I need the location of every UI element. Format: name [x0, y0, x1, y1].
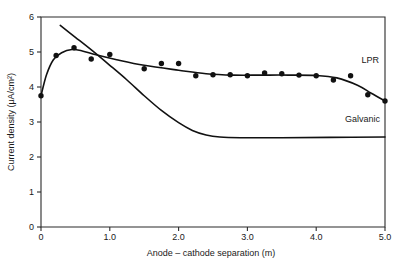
- y-tick-label: 2: [29, 152, 34, 162]
- data-point: [279, 71, 284, 76]
- data-point: [71, 45, 76, 50]
- x-axis-ticks: 01.02.03.04.05.0: [38, 227, 391, 242]
- plot-series: [38, 25, 387, 137]
- data-point: [262, 70, 267, 75]
- data-point: [210, 72, 215, 77]
- data-point: [245, 73, 250, 78]
- plot-frame: [41, 17, 385, 227]
- chart-figure: 0123456 01.02.03.04.05.0 LPRGalvanic Ano…: [0, 0, 407, 270]
- current-density-vs-separation-chart: 0123456 01.02.03.04.05.0 LPRGalvanic Ano…: [0, 0, 407, 270]
- series-label-lpr: LPR: [362, 55, 380, 65]
- data-point: [53, 53, 58, 58]
- data-point: [142, 66, 147, 71]
- galvanic-fit-line: [60, 25, 385, 137]
- data-point: [331, 77, 336, 82]
- data-point: [296, 72, 301, 77]
- x-axis-title: Anode – cathode separation (m): [147, 248, 276, 258]
- y-axis-ticks: 0123456: [29, 12, 41, 232]
- data-point: [159, 61, 164, 66]
- data-point: [176, 61, 181, 66]
- data-point: [382, 98, 387, 103]
- x-tick-label: 4.0: [310, 232, 323, 242]
- y-tick-label: 4: [29, 82, 34, 92]
- axis-frame: [41, 17, 385, 227]
- data-point: [107, 52, 112, 57]
- y-axis-title: Current density (μA/cm²): [6, 73, 16, 171]
- y-tick-label: 5: [29, 47, 34, 57]
- y-tick-label: 6: [29, 12, 34, 22]
- y-tick-label: 0: [29, 222, 34, 232]
- data-point: [89, 56, 94, 61]
- data-point: [193, 73, 198, 78]
- x-tick-label: 3.0: [241, 232, 254, 242]
- x-tick-label: 2.0: [172, 232, 185, 242]
- data-point: [228, 72, 233, 77]
- data-point: [38, 93, 43, 98]
- series-annotations: LPRGalvanic: [345, 55, 381, 125]
- y-tick-label: 3: [29, 117, 34, 127]
- data-point: [348, 73, 353, 78]
- x-tick-label: 1.0: [104, 232, 117, 242]
- x-tick-label: 5.0: [379, 232, 392, 242]
- y-tick-label: 1: [29, 187, 34, 197]
- series-label-galvanic: Galvanic: [345, 114, 381, 124]
- data-point: [365, 92, 370, 97]
- x-tick-label: 0: [38, 232, 43, 242]
- data-point: [314, 73, 319, 78]
